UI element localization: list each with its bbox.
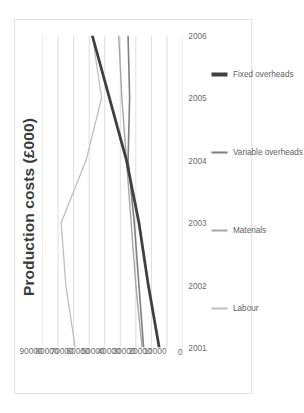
legend-swatch-icon xyxy=(211,229,227,231)
legend-item-labour[interactable]: Labour xyxy=(211,269,245,347)
legend-label: Materials xyxy=(233,226,266,235)
x-tick-label: 2002 xyxy=(186,280,208,290)
y-tick-label: 10000 xyxy=(143,346,166,356)
x-tick-label: 2006 xyxy=(186,30,208,40)
rotated-chart-container: Production costs (£000) 9000080000700006… xyxy=(15,20,251,393)
x-tick-label: 2003 xyxy=(186,217,208,227)
page-title: Production costs (£000) xyxy=(19,20,37,393)
screenshot-canvas: Production costs (£000) 9000080000700006… xyxy=(0,0,267,413)
legend-swatch-icon xyxy=(211,72,227,75)
legend-item-fixed-overheads[interactable]: Fixed overheads xyxy=(211,35,245,113)
x-tick-label: 2004 xyxy=(186,155,208,165)
x-tick-label: 2005 xyxy=(186,92,208,102)
x-tick-label: 2001 xyxy=(186,342,208,352)
legend-label: Labour xyxy=(233,304,259,313)
y-axis-tick-labels: 9000080000700006000050000400003000020000… xyxy=(42,349,182,393)
series-line-variable-overheads xyxy=(128,35,144,347)
line-chart-svg xyxy=(42,35,182,347)
legend-item-variable-overheads[interactable]: Variable overheads xyxy=(211,113,245,191)
plot-area xyxy=(42,35,182,347)
series-lines xyxy=(61,35,159,347)
legend-label: Variable overheads xyxy=(233,148,268,157)
gridlines xyxy=(42,35,182,347)
chart-legend: LabourMaterialsVariable overheadsFixed o… xyxy=(211,35,245,347)
x-axis-tick-labels: 200120022003200420052006 xyxy=(185,35,211,347)
legend-swatch-icon xyxy=(211,307,227,309)
chart-plate: Production costs (£000) 9000080000700006… xyxy=(14,19,252,394)
series-line-fixed-overheads xyxy=(92,35,159,347)
y-tick-label: 0 xyxy=(177,346,182,356)
legend-swatch-icon xyxy=(211,151,227,153)
legend-label: Fixed overheads xyxy=(233,70,268,79)
series-line-labour xyxy=(61,35,101,347)
legend-item-materials[interactable]: Materials xyxy=(211,191,245,269)
